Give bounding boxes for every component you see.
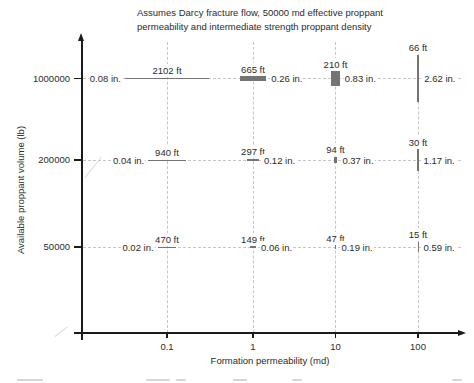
proppant-fracture-chart: Assumes Darcy fracture flow, 50000 md ef… [0, 0, 474, 383]
fracture-length-label: 66 ft [408, 41, 429, 54]
fracture-width-label: 0.26 in. [270, 72, 303, 85]
caption-fragment [452, 379, 462, 381]
fracture-bar [334, 157, 338, 164]
fracture-width-label: 0.12 in. [263, 154, 296, 167]
fracture-bar [417, 55, 420, 102]
fracture-length-label: 210 ft [323, 58, 349, 71]
fracture-length-label: 470 ft [154, 233, 180, 246]
fracture-length-label: 940 ft [154, 146, 180, 159]
x-tick-label: 0.1 [160, 341, 173, 353]
scan-artifact-slash [55, 326, 68, 337]
caption-fragment [233, 379, 247, 381]
chart-title-line2: permeability and intermediate strength p… [137, 20, 383, 34]
fracture-length-label: 15 ft [408, 228, 429, 241]
y-tick-label: 1000000 [26, 73, 70, 85]
x-axis-title: Formation permeability (md) [211, 355, 330, 366]
x-tick [166, 333, 167, 338]
fracture-width-label: 0.83 in. [344, 72, 377, 85]
chart-title: Assumes Darcy fracture flow, 50000 md ef… [137, 6, 383, 33]
fracture-bar [417, 149, 418, 170]
gridline-vertical [167, 42, 168, 333]
fracture-bar [148, 160, 186, 161]
fracture-width-label: 0.04 in. [112, 154, 145, 167]
chart-title-line1: Assumes Darcy fracture flow, 50000 md ef… [137, 6, 383, 20]
fracture-bar [418, 242, 419, 253]
fracture-width-label: 0.37 in. [341, 154, 374, 167]
fracture-width-label: 0.06 in. [260, 241, 293, 254]
caption-fragment [17, 379, 43, 381]
x-axis-arrow-icon [458, 330, 466, 336]
x-tick [417, 333, 418, 338]
fracture-bar [240, 76, 267, 81]
fracture-length-label: 30 ft [408, 136, 429, 149]
y-tick-label: 200000 [26, 154, 70, 166]
caption-fragment [292, 379, 302, 381]
y-axis-title: Available proppant volume (lb) [15, 126, 26, 254]
x-axis-line [74, 332, 460, 333]
fracture-width-label: 0.19 in. [340, 241, 373, 254]
fracture-bar [125, 78, 209, 79]
caption-fragment [176, 379, 186, 381]
fracture-bar [158, 247, 177, 248]
fracture-bar [250, 246, 256, 247]
fracture-width-label: 0.08 in. [89, 72, 122, 85]
x-tick-label: 100 [410, 341, 426, 353]
y-tick-label: 50000 [26, 241, 70, 253]
fracture-width-label: 1.17 in. [423, 154, 456, 167]
gridline-vertical [253, 42, 254, 333]
caption-fragment [146, 379, 170, 381]
x-tick [335, 333, 336, 338]
y-axis-arrow-icon [78, 33, 84, 41]
x-tick [252, 333, 253, 338]
x-tick-label: 10 [330, 341, 341, 353]
fracture-width-label: 0.02 in. [121, 241, 154, 254]
fracture-length-label: 2102 ft [151, 64, 182, 77]
fracture-bar [335, 245, 337, 248]
y-axis-line [81, 38, 82, 340]
fracture-bar [247, 159, 259, 161]
fracture-width-label: 2.62 in. [423, 72, 456, 85]
fracture-bar [331, 71, 339, 86]
fracture-width-label: 0.59 in. [423, 241, 456, 254]
fracture-length-label: 665 ft [240, 63, 266, 76]
x-tick-label: 1 [250, 341, 255, 353]
